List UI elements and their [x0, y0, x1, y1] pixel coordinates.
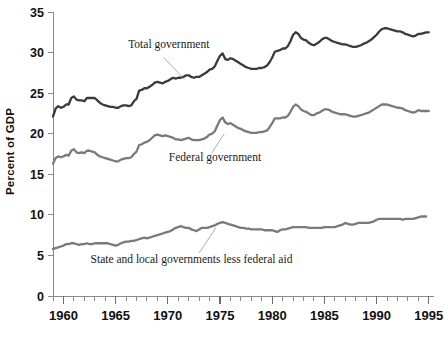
line-chart: 05101520253035 1960196519701975198019851…: [0, 0, 448, 338]
y-axis-title: Percent of GDP: [4, 108, 16, 195]
x-axis-tick-label: 1960: [49, 308, 78, 323]
y-axis-tick-label: 10: [30, 208, 44, 222]
y-axis-title-text: Percent of GDP: [4, 108, 16, 195]
x-axis-tick-label: 1985: [310, 308, 339, 323]
x-axis-tick-label: 1995: [414, 308, 443, 323]
x-axis-tick-label: 1980: [258, 308, 287, 323]
chart-background: [0, 0, 448, 338]
federal-government-label: Federal government: [169, 151, 262, 164]
state-local-label: State and local governments less federal…: [91, 253, 293, 266]
y-axis-tick-label: 30: [30, 46, 44, 60]
y-axis-tick-label: 5: [37, 249, 44, 263]
y-axis-tick-label: 20: [30, 127, 44, 141]
y-axis-tick-label: 15: [30, 168, 44, 182]
y-axis-tick-label: 25: [30, 87, 44, 101]
chart-container: 05101520253035 1960196519701975198019851…: [0, 0, 448, 338]
y-axis-tick-label: 35: [30, 6, 44, 20]
y-axis-tick-label: 0: [37, 290, 44, 304]
total-government-label: Total government: [128, 38, 210, 51]
x-axis-tick-label: 1975: [206, 308, 235, 323]
x-axis-tick-label: 1965: [101, 308, 130, 323]
x-axis-tick-label: 1990: [362, 308, 391, 323]
x-axis-tick-label: 1970: [153, 308, 182, 323]
